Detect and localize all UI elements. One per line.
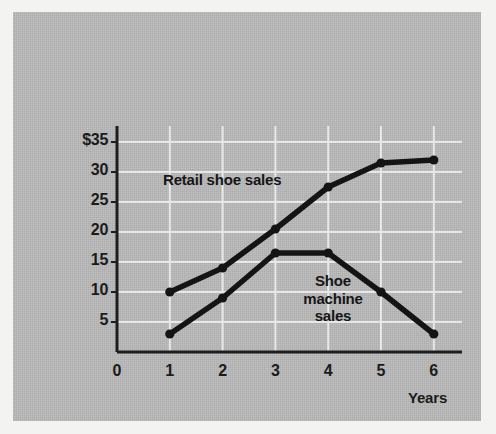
x-tick-label: 5 bbox=[367, 362, 395, 380]
y-axis-tick-labels: $3530252015105 bbox=[34, 0, 108, 434]
x-tick-label: 2 bbox=[209, 362, 237, 380]
data-point-marker bbox=[324, 182, 333, 191]
data-point-marker bbox=[429, 155, 438, 164]
data-point-marker bbox=[324, 248, 333, 257]
y-tick-label: 20 bbox=[34, 221, 108, 239]
y-tick-label: 25 bbox=[34, 191, 108, 209]
y-tick-label: 15 bbox=[34, 251, 108, 269]
y-tick-label: 10 bbox=[34, 281, 108, 299]
data-point-marker bbox=[271, 224, 280, 233]
x-axis-title: Years bbox=[408, 389, 447, 406]
series-label-shoe-machine-sales: Shoe machine sales bbox=[296, 272, 370, 325]
data-point-marker bbox=[165, 287, 174, 296]
data-point-marker bbox=[376, 158, 385, 167]
chart-figure: $3530252015105 0123456 Years Retail shoe… bbox=[0, 0, 496, 434]
data-point-marker bbox=[165, 329, 174, 338]
x-tick-label: 6 bbox=[420, 362, 448, 380]
y-tick-label: 30 bbox=[34, 161, 108, 179]
x-tick-label: 3 bbox=[261, 362, 289, 380]
series-label-retail-shoe-sales: Retail shoe sales bbox=[163, 171, 281, 189]
data-point-marker bbox=[218, 263, 227, 272]
data-point-marker bbox=[429, 329, 438, 338]
x-tick-label: 0 bbox=[103, 362, 131, 380]
x-tick-label: 4 bbox=[314, 362, 342, 380]
y-tick-label: 5 bbox=[34, 311, 108, 329]
x-tick-label: 1 bbox=[156, 362, 184, 380]
y-tick-label: $35 bbox=[34, 131, 108, 149]
data-point-marker bbox=[218, 293, 227, 302]
data-point-marker bbox=[271, 248, 280, 257]
data-point-marker bbox=[376, 287, 385, 296]
